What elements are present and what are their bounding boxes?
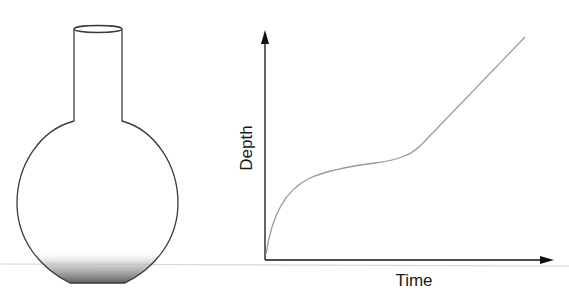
- figure-canvas: [0, 0, 569, 300]
- sediment: [10, 250, 190, 286]
- figure: Depth Time: [0, 0, 569, 300]
- depth-curve: [266, 37, 525, 254]
- x-axis-label: Time: [395, 271, 432, 291]
- flask: [10, 26, 190, 287]
- x-axis-arrow-icon: [540, 256, 554, 264]
- depth-time-chart: [261, 30, 554, 264]
- y-axis-label: Depth: [237, 125, 257, 170]
- flask-mouth: [74, 26, 122, 33]
- flask-outline: [17, 29, 178, 283]
- y-axis-arrow-icon: [261, 30, 269, 44]
